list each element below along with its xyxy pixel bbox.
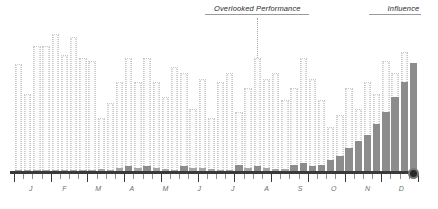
- bar-outline: [24, 94, 31, 172]
- axis-tick-minor: [280, 174, 281, 179]
- plot-area: [14, 22, 418, 172]
- bar-outline: [98, 118, 105, 172]
- axis-tick-minor: [179, 174, 180, 179]
- axis-tick-major: [381, 174, 382, 182]
- axis-tick-minor: [326, 174, 327, 179]
- bar-outline: [79, 58, 86, 172]
- bar-outline: [300, 58, 307, 172]
- bar-outline: [134, 82, 141, 172]
- axis-tick-major: [308, 174, 309, 182]
- bar-outline: [208, 118, 215, 172]
- month-label-2: M: [91, 185, 105, 192]
- bar-outline: [254, 58, 261, 172]
- bar-outline: [162, 97, 169, 172]
- axis-tick-minor: [317, 174, 318, 179]
- bar-filled: [382, 112, 389, 172]
- axis-tick-major: [161, 174, 162, 182]
- bar-outline: [272, 73, 279, 172]
- axis-tick-minor: [60, 174, 61, 179]
- bar-outline: [171, 67, 178, 172]
- chart-container: Overlooked Performance Influence JFMAMJJ…: [0, 0, 438, 209]
- bar-filled: [401, 82, 408, 172]
- month-label-5: J: [192, 185, 206, 192]
- annotation-influence: Influence: [369, 4, 421, 15]
- axis-tick-minor: [188, 174, 189, 179]
- bar-outline: [88, 61, 95, 172]
- bar-filled: [355, 141, 362, 173]
- axis-tick-major: [51, 174, 52, 182]
- axis-tick-minor: [244, 174, 245, 179]
- bar-outline: [217, 82, 224, 172]
- axis-tick-minor: [289, 174, 290, 179]
- bar-outline: [153, 82, 160, 172]
- bar-outline: [189, 109, 196, 172]
- axis-tick-minor: [253, 174, 254, 179]
- bar-outline: [42, 46, 49, 172]
- axis-tick-minor: [170, 174, 171, 179]
- month-label-6: J: [226, 185, 240, 192]
- bar-filled: [391, 97, 398, 172]
- axis-tick-minor: [225, 174, 226, 179]
- axis-tick-minor: [207, 174, 208, 179]
- month-label-4: M: [159, 185, 173, 192]
- bar-outline: [125, 58, 132, 172]
- axis-tick-minor: [42, 174, 43, 179]
- axis-tick-major: [87, 174, 88, 182]
- month-label-1: F: [58, 185, 72, 192]
- annotation-underline: [369, 14, 421, 15]
- axis-tick-minor: [23, 174, 24, 179]
- annotation-underline: [205, 14, 309, 15]
- axis-tick-major: [124, 174, 125, 182]
- bar-filled: [345, 148, 352, 172]
- bar-filled: [410, 63, 417, 173]
- bar-outline: [180, 73, 187, 172]
- month-label-8: S: [293, 185, 307, 192]
- axis-tick-minor: [69, 174, 70, 179]
- axis-tick-major: [345, 174, 346, 182]
- bar-outline: [263, 79, 270, 172]
- bar-filled: [336, 156, 343, 173]
- bar-outline: [199, 79, 206, 172]
- axis-tick-minor: [299, 174, 300, 179]
- axis-tick-minor: [400, 174, 401, 179]
- axis-tick-major: [198, 174, 199, 182]
- axis-tick-minor: [143, 174, 144, 179]
- bar-outline: [244, 88, 251, 172]
- annotation-overlooked-performance: Overlooked Performance: [205, 4, 309, 15]
- bar-outline: [290, 88, 297, 172]
- axis-tick-minor: [106, 174, 107, 179]
- axis-tick-minor: [97, 174, 98, 179]
- bar-outline: [52, 34, 59, 172]
- axis-tick-minor: [354, 174, 355, 179]
- axis-tick-minor: [78, 174, 79, 179]
- month-label-0: J: [24, 185, 38, 192]
- axis-tick-minor: [216, 174, 217, 179]
- axis-tick-minor: [133, 174, 134, 179]
- axis-tick-minor: [363, 174, 364, 179]
- axis-tick-minor: [262, 174, 263, 179]
- month-label-10: N: [361, 185, 375, 192]
- axis-tick-major: [234, 174, 235, 182]
- axis-tick-minor: [335, 174, 336, 179]
- axis-tick-minor: [152, 174, 153, 179]
- bar-outline: [235, 112, 242, 172]
- bar-filled: [364, 135, 371, 173]
- bar-outline: [70, 37, 77, 172]
- month-label-7: A: [260, 185, 274, 192]
- axis-tick-major: [271, 174, 272, 182]
- month-label-9: O: [327, 185, 341, 192]
- month-label-11: D: [394, 185, 408, 192]
- bar-outline: [143, 58, 150, 172]
- bar-outline: [107, 103, 114, 172]
- end-marker-dot[interactable]: [408, 168, 419, 179]
- annotation-label: Influence: [369, 4, 421, 14]
- bar-outline: [33, 46, 40, 172]
- bar-outline: [116, 82, 123, 172]
- month-label-3: A: [125, 185, 139, 192]
- bar-outline: [318, 100, 325, 172]
- axis-tick-minor: [372, 174, 373, 179]
- axis-tick-minor: [390, 174, 391, 179]
- bar-outline: [281, 100, 288, 172]
- axis-tick-major: [14, 174, 15, 182]
- bar-outline: [61, 55, 68, 172]
